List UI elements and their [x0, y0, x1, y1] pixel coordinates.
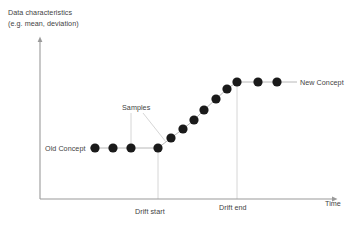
- data-point-marker: [211, 94, 220, 103]
- data-point-marker: [222, 84, 231, 93]
- old-concept-annotation: Old Concept: [45, 144, 86, 154]
- data-point-marker: [189, 115, 198, 124]
- data-point-marker: [166, 133, 175, 142]
- data-point-marker: [178, 124, 187, 133]
- data-point-marker: [199, 105, 208, 114]
- y-axis-arrowhead-icon: [38, 37, 43, 43]
- y-axis-label: Data characteristics(e.g. mean, deviatio…: [8, 8, 79, 29]
- x-axis-label: Time: [325, 199, 341, 209]
- data-point-marker: [272, 77, 281, 86]
- y-axis-label-line1: Data characteristics: [8, 8, 72, 17]
- data-connector-line: [95, 82, 277, 148]
- samples-leader-line-diagonal: [143, 113, 166, 142]
- drift-end-annotation: Drift end: [219, 203, 247, 213]
- drift-start-annotation: Drift start: [135, 207, 165, 217]
- data-point-marker: [126, 143, 135, 152]
- concept-drift-diagram: Data characteristics(e.g. mean, deviatio…: [0, 0, 361, 229]
- samples-annotation: Samples: [122, 103, 150, 113]
- y-axis-label-line2: (e.g. mean, deviation): [8, 19, 79, 28]
- data-point-marker: [232, 77, 241, 86]
- data-point-marker: [90, 143, 99, 152]
- concept-drift-plot: [0, 0, 361, 229]
- data-point-marker: [253, 77, 262, 86]
- data-point-marker: [153, 143, 162, 152]
- new-concept-annotation: New Concept: [300, 78, 344, 88]
- data-point-marker: [108, 143, 117, 152]
